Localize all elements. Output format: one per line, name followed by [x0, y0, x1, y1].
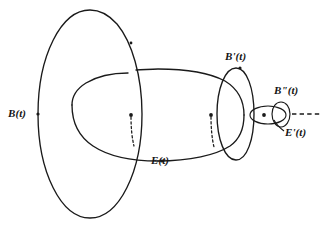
label-E-prime-text: E'(t): [285, 126, 306, 138]
label-B-prime-text: B'(t): [225, 50, 246, 62]
point-link-1: [129, 113, 133, 117]
curve-B-prime-loop: [217, 68, 254, 160]
curve-E-prime-loop: [250, 106, 286, 124]
curve-E-hidden-left: [131, 117, 134, 146]
label-B-double-prime-of-t: B"(t): [274, 85, 298, 96]
figure-canvas: B(t) E(t) B'(t) B"(t) E'(t): [0, 0, 328, 230]
curve-B-double-prime-loop: [272, 102, 290, 127]
curve-E-top-left: [72, 73, 128, 105]
label-E-of-t: E(t): [151, 155, 169, 166]
point-top-tick: [130, 42, 133, 45]
label-E-text: E(t): [151, 154, 169, 166]
point-link-2: [209, 113, 213, 117]
label-E-prime-of-t: E'(t): [285, 127, 306, 138]
curve-E-left-cap: [72, 105, 158, 161]
label-B-text: B(t): [8, 107, 26, 119]
label-B-of-t: B(t): [8, 108, 26, 119]
label-B-double-prime-text: B"(t): [274, 84, 298, 96]
curve-E-hidden-right: [211, 117, 214, 147]
point-E-prime: [262, 113, 266, 117]
point-B: [36, 112, 39, 115]
point-B-prime: [238, 66, 241, 69]
label-B-prime-of-t: B'(t): [225, 51, 246, 62]
curve-E-top-right: [136, 69, 244, 115]
curve-E-bottom-right: [158, 115, 244, 161]
link-diagram-svg: [0, 0, 328, 230]
curve-B-loop: [38, 10, 142, 218]
